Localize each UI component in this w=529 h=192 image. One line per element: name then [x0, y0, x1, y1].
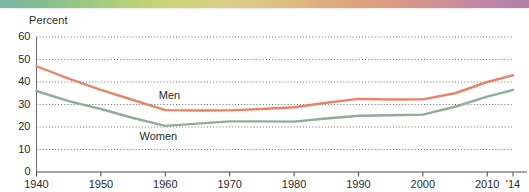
series-lines — [37, 66, 514, 126]
x-tick-label-1970: 1970 — [208, 178, 252, 190]
y-tick-label-40: 40 — [7, 75, 31, 87]
y-tick-label-10: 10 — [7, 143, 31, 155]
y-tick-label-20: 20 — [7, 120, 31, 132]
plot-canvas — [0, 0, 529, 192]
y-tick-label-30: 30 — [7, 98, 31, 110]
series-line-men — [37, 66, 514, 110]
x-tick-label-1990: 1990 — [336, 178, 380, 190]
series-label-women: Women — [140, 130, 178, 142]
x-tick-label-2014: '14 — [491, 178, 529, 190]
x-tick-label-1940: 1940 — [15, 178, 59, 190]
gridlines — [37, 37, 514, 172]
x-tick-label-1980: 1980 — [272, 178, 316, 190]
y-tick-label-50: 50 — [7, 53, 31, 65]
series-label-men: Men — [159, 89, 180, 101]
y-tick-label-60: 60 — [7, 30, 31, 42]
x-tick-label-1950: 1950 — [79, 178, 123, 190]
x-tick-label-1960: 1960 — [143, 178, 187, 190]
chart-screenshot: Percent 0102030405060 194019501960197019… — [0, 0, 529, 192]
x-tick-label-2000: 2000 — [401, 178, 445, 190]
x-tick-marks — [37, 172, 514, 177]
y-tick-label-0: 0 — [7, 165, 31, 177]
line-chart: Percent 0102030405060 194019501960197019… — [0, 0, 529, 192]
